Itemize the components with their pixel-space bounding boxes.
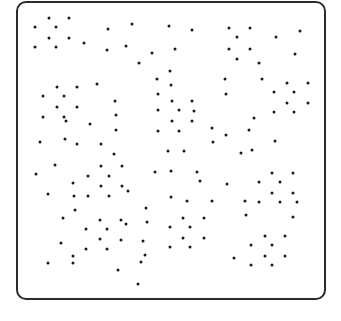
- dot: [182, 237, 185, 240]
- dot: [56, 86, 59, 89]
- dot: [42, 116, 45, 119]
- dot: [271, 192, 274, 195]
- dot: [55, 46, 58, 49]
- dot: [169, 226, 172, 229]
- dot: [54, 164, 57, 167]
- dot: [250, 244, 253, 247]
- dot: [203, 217, 206, 220]
- dot: [225, 93, 228, 96]
- scatter-dots: [0, 0, 341, 321]
- dot: [96, 83, 99, 86]
- dot: [249, 27, 252, 30]
- dot: [169, 70, 172, 73]
- dot: [62, 217, 65, 220]
- dot: [191, 120, 194, 123]
- dot: [171, 120, 174, 123]
- dot: [178, 109, 181, 112]
- dot: [248, 129, 251, 132]
- dot: [83, 42, 86, 45]
- dot: [258, 201, 261, 204]
- dot: [142, 240, 145, 243]
- dot: [264, 255, 267, 258]
- dot: [60, 242, 63, 245]
- dot: [169, 246, 172, 249]
- dot: [76, 86, 79, 89]
- dot: [307, 102, 310, 105]
- dot: [114, 100, 117, 103]
- dot: [68, 37, 71, 40]
- dot: [182, 217, 185, 220]
- dot: [226, 183, 229, 186]
- dot: [168, 25, 171, 28]
- dot: [286, 82, 289, 85]
- dot: [196, 171, 199, 174]
- dot: [63, 95, 66, 98]
- dot: [151, 52, 154, 55]
- dot: [292, 172, 295, 175]
- dot: [250, 264, 253, 267]
- dot: [72, 182, 75, 185]
- dot: [120, 219, 123, 222]
- dot: [292, 192, 295, 195]
- dot: [107, 28, 110, 31]
- dot: [108, 175, 111, 178]
- dot: [127, 190, 130, 193]
- dot: [258, 62, 261, 65]
- dot: [108, 195, 111, 198]
- dot: [170, 84, 173, 87]
- dot: [189, 226, 192, 229]
- dot: [224, 78, 227, 81]
- dot: [117, 269, 120, 272]
- dot: [48, 17, 51, 20]
- dot: [240, 152, 243, 155]
- dot: [170, 170, 173, 173]
- dot: [140, 261, 143, 264]
- dot: [245, 214, 248, 217]
- dot: [76, 143, 79, 146]
- dot: [228, 27, 231, 30]
- dot: [271, 172, 274, 175]
- dot: [121, 185, 124, 188]
- dot: [191, 100, 194, 103]
- dot: [34, 46, 37, 49]
- dot: [125, 45, 128, 48]
- dot: [42, 95, 45, 98]
- dot: [156, 78, 159, 81]
- dot: [113, 153, 116, 156]
- dot: [244, 200, 247, 203]
- dot: [284, 255, 287, 258]
- dot: [121, 165, 124, 168]
- dot: [63, 116, 66, 119]
- dot: [251, 149, 254, 152]
- dot: [286, 102, 289, 105]
- dot: [292, 216, 295, 219]
- dot: [115, 129, 118, 132]
- dot: [68, 17, 71, 20]
- dot: [131, 23, 134, 26]
- dot: [99, 219, 102, 222]
- dot: [120, 239, 123, 242]
- dot: [170, 196, 173, 199]
- dot: [299, 30, 302, 33]
- dot: [73, 195, 76, 198]
- dot: [138, 62, 141, 65]
- dot: [39, 141, 42, 144]
- dot: [186, 200, 189, 203]
- dot: [85, 248, 88, 251]
- dot: [125, 223, 128, 226]
- dot: [293, 111, 296, 114]
- dot: [100, 143, 103, 146]
- dot: [100, 185, 103, 188]
- dot: [189, 246, 192, 249]
- dot: [106, 228, 109, 231]
- dot: [279, 181, 282, 184]
- dot: [307, 82, 310, 85]
- dot: [233, 257, 236, 260]
- dot: [157, 109, 160, 112]
- dot: [253, 117, 256, 120]
- dot: [258, 181, 261, 184]
- dot: [274, 140, 277, 143]
- dot: [228, 48, 231, 51]
- dot: [115, 114, 118, 117]
- dot: [89, 123, 92, 126]
